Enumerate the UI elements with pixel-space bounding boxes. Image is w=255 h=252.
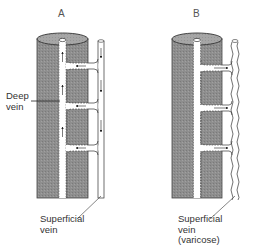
- panel-a-label: A: [58, 8, 65, 19]
- panel-a: [31, 33, 104, 219]
- superficial-vein-label-a: Superficial vein: [40, 214, 84, 235]
- superficial-vein-varicose-label: Superficial vein (varicose): [178, 214, 222, 246]
- venous-diagram: A B Deep vein Superficial vein Superfici…: [0, 0, 255, 252]
- deep-vein-label: Deep vein: [6, 91, 29, 112]
- panel-b: [172, 33, 239, 219]
- panel-b-label: B: [193, 8, 200, 19]
